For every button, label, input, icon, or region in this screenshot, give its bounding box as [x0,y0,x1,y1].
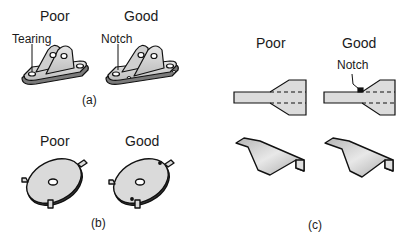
panel-c-good-blank [324,74,395,115]
diagram-drawings [0,0,406,245]
panel-c-good-channel [325,138,393,177]
panel-a-good-bracket [106,44,178,84]
panel-a-poor-bracket [22,44,88,84]
panel-c-poor-channel [236,138,304,175]
panel-b-poor-disc [19,150,90,215]
panel-b-good-disc [106,150,177,215]
panel-c-poor-blank [234,80,306,115]
